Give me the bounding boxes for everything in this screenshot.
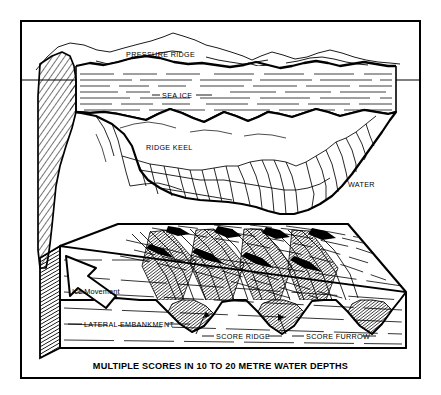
figure-caption: MULTIPLE SCORES IN 10 TO 20 METRE WATER … xyxy=(93,361,348,371)
label-score-furrow: SCORE FURROW xyxy=(306,332,370,341)
label-ice-movement: Ice Movement xyxy=(72,287,120,296)
label-sea-ice: SEA ICE xyxy=(162,91,192,100)
label-pressure-ridge: PRESSURE RIDGE xyxy=(126,50,195,59)
diagram-canvas: PRESSURE RIDGE SEA ICE RIDGE KEEL WATER … xyxy=(0,0,441,395)
seabed-left-face xyxy=(40,246,60,358)
label-water: WATER xyxy=(348,180,375,189)
label-lateral-embankment: LATERAL EMBANKMENT xyxy=(84,320,174,329)
label-ridge-keel: RIDGE KEEL xyxy=(146,143,193,152)
ice-scour-figure: PRESSURE RIDGE SEA ICE RIDGE KEEL WATER … xyxy=(0,0,441,395)
label-score-ridge: SCORE RIDGE xyxy=(216,332,270,341)
